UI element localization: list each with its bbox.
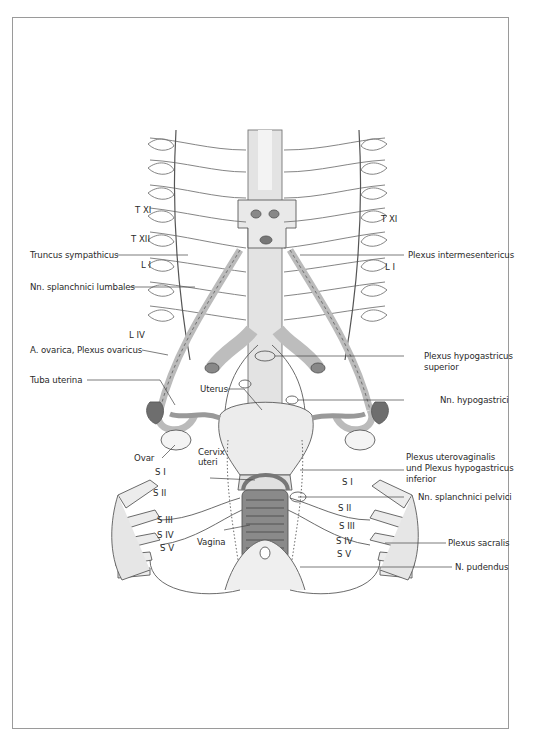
label-truncus-sympathicus: Truncus sympathicus (30, 250, 118, 261)
label-plexus-sacralis: Plexus sacralis (448, 538, 509, 549)
label-und-plexus-hypogastricus: und Plexus hypogastricus (406, 463, 514, 474)
label-plexus-hypogastricus-superior: Plexus hypogastricus (424, 351, 513, 362)
label-uteri: uteri (198, 457, 218, 468)
label-nn-hypogastrici: Nn. hypogastrici (440, 395, 509, 406)
level-left-sv: S V (160, 543, 174, 553)
level-left-txi: T XI (135, 205, 151, 215)
label-inferior: inferior (406, 474, 436, 485)
level-right-sii: S II (338, 503, 351, 513)
label-plexus-uterovaginalis: Plexus uterovaginalis (406, 452, 495, 463)
level-left-li: L I (141, 260, 151, 270)
level-right-txi: T XI (381, 214, 397, 224)
label-uterus: Uterus (200, 384, 228, 395)
label-n-pudendus: N. pudendus (455, 562, 508, 573)
label-superior: superior (424, 362, 459, 373)
level-right-siii: S III (339, 521, 355, 531)
label-a-ovarica: A. ovarica, Plexus ovaricus (30, 345, 142, 356)
level-left-siii: S III (157, 515, 173, 525)
label-cervix: Cervix (198, 447, 225, 458)
level-left-sii: S II (153, 488, 166, 498)
level-right-li: L I (385, 262, 395, 272)
label-nn-splanchnici-lumbales: Nn. splanchnici lumbales (30, 282, 135, 293)
label-plexus-intermesentericus: Plexus intermesentericus (408, 250, 514, 261)
level-left-txii: T XII (131, 234, 150, 244)
level-right-si: S I (342, 477, 353, 487)
label-tuba-uterina: Tuba uterina (30, 375, 82, 386)
label-ovar: Ovar (134, 453, 154, 464)
label-nn-splanchnici-pelvici: Nn. splanchnici pelvici (418, 492, 512, 503)
level-right-siv: S IV (336, 536, 353, 546)
level-right-sv: S V (337, 549, 351, 559)
label-vagina: Vagina (197, 537, 225, 548)
level-left-siv: S IV (157, 530, 174, 540)
level-left-liv: L IV (129, 330, 145, 340)
level-left-si: S I (155, 467, 166, 477)
